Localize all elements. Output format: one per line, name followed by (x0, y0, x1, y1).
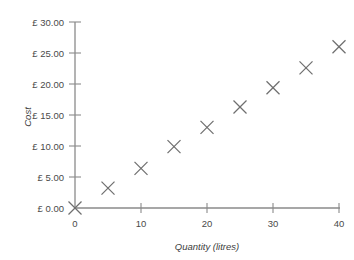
data-point-marker: 35 , £ 22.60 (300, 61, 313, 74)
x-axis-title: Quantity (litres) (175, 241, 239, 252)
y-tick-label-0: £ 0.00 (38, 203, 64, 214)
x-tick-label-0: 0 (72, 218, 77, 229)
data-point-marker: 15 , £ 9.90 (168, 140, 181, 153)
x-tick-label-40: 40 (334, 218, 345, 229)
x-tick-label-30: 30 (268, 218, 279, 229)
data-point-marker: 20 , £ 13.00 (201, 121, 214, 134)
scatter-chart: £ 30.00 £ 25.00 £ 20.00 £ 15.00 £ 10.00 … (0, 0, 354, 260)
y-axis-title: Cost (22, 107, 33, 127)
x-tick-label-10: 10 (136, 218, 147, 229)
y-tick-label-15: £ 15.00 (32, 110, 64, 121)
y-tick-label-30: £ 30.00 (32, 17, 64, 28)
y-tick-label-10: £ 10.00 (32, 141, 64, 152)
data-point-marker: 10 , £ 6.40 (135, 162, 148, 175)
data-point-marker: 30 , £ 19.40 (267, 81, 280, 94)
y-tick-label-5: £ 5.00 (38, 172, 64, 183)
data-point-marker: 5 , £ 3.20 (102, 182, 115, 195)
data-point-marker: 40 , £ 26.00 (333, 40, 346, 53)
data-point-marker: 25 , £ 16.30 (234, 100, 247, 113)
chart-plot-area: £ 30.00 £ 25.00 £ 20.00 £ 15.00 £ 10.00 … (0, 0, 354, 260)
data-point-markers: 0 , £ 0.005 , £ 3.2010 , £ 6.4015 , £ 9.… (69, 40, 346, 214)
x-tick-label-20: 20 (202, 218, 213, 229)
y-tick-label-20: £ 20.00 (32, 79, 64, 90)
y-tick-label-25: £ 25.00 (32, 48, 64, 59)
